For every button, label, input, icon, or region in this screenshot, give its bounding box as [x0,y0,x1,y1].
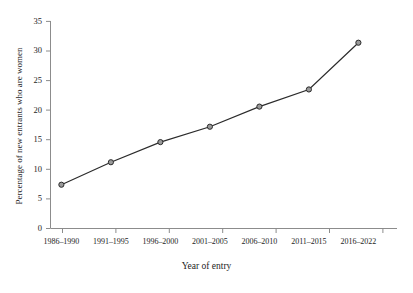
data-point-marker [207,124,212,129]
data-point-marker [158,140,163,145]
x-tick-marks [63,229,383,234]
x-tick-label: 1986–1990 [34,238,88,246]
y-axis-title: Percentage of new entrants who are women [15,48,24,205]
data-point-marker [108,160,113,165]
chart-figure: 05101520253035 1986–19901991–19951996–20… [0,0,413,293]
x-tick-label: 1996–2000 [133,238,187,246]
data-point-marker [356,40,361,45]
data-point-marker [257,104,262,109]
x-axis-title: Year of entry [0,262,413,272]
x-tick-label: 2011–2015 [282,238,336,246]
data-point-marker [59,182,64,187]
x-tick-label: 2016–2022 [331,238,385,246]
y-axis-title-wrap: Percentage of new entrants who are women [12,22,26,230]
line-chart-canvas [0,0,413,293]
x-tick-label: 1991–1995 [84,238,138,246]
y-tick-marks [46,21,51,228]
x-tick-label: 2006–2010 [232,238,286,246]
data-point-marker [306,87,311,92]
data-series-line [61,43,358,185]
x-tick-label: 2001–2005 [183,238,237,246]
